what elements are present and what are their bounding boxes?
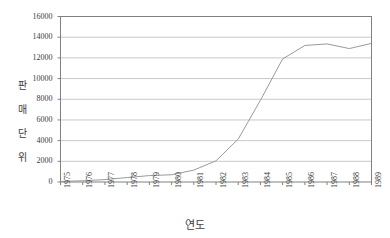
y-axis-tick-label: 10000 (23, 75, 53, 83)
x-axis-tick-label: 1987 (331, 172, 339, 188)
x-axis-tick-label: 1989 (375, 172, 383, 188)
x-axis-tick-label: 1988 (353, 172, 361, 188)
x-axis-title: 연도 (0, 216, 390, 232)
x-axis-tick-label: 1975 (64, 172, 72, 188)
y-axis-tick-label: 8000 (23, 95, 53, 103)
x-axis-tick-label: 1978 (131, 172, 139, 188)
x-axis-tick-label: 1984 (264, 172, 272, 188)
gridlines (61, 17, 372, 162)
x-axis-tick-label: 1977 (108, 172, 116, 188)
plot-canvas (0, 0, 390, 238)
y-axis-tick-label: 2000 (23, 157, 53, 165)
x-axis-tick-label: 1982 (220, 172, 228, 188)
y-axis-tick-label: 4000 (23, 137, 53, 145)
x-axis-tick-label: 1986 (308, 172, 316, 188)
x-axis-tick-label: 1979 (153, 172, 161, 188)
x-axis-tick-label: 1976 (86, 172, 94, 188)
data-series-line (61, 43, 372, 181)
y-axis-tick-label: 0 (23, 178, 53, 186)
y-axis-title-char-2: 매 (14, 104, 30, 116)
x-axis-tick-label: 1980 (175, 172, 183, 188)
y-axis-tick-label: 14000 (23, 33, 53, 41)
y-axis-tick-label: 12000 (23, 54, 53, 62)
y-axis-tick-label: 6000 (23, 116, 53, 124)
x-axis-tick-label: 1985 (286, 172, 294, 188)
x-axis-tick-label: 1983 (242, 172, 250, 188)
y-axis-tick-label: 16000 (23, 13, 53, 21)
chart-figure: 판 매 단 위 연도 02000400060008000100001200014… (0, 0, 390, 238)
x-axis-tick-label: 1981 (197, 172, 205, 188)
